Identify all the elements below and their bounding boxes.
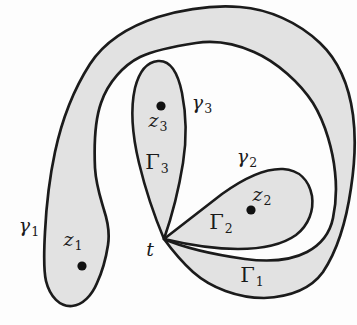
label-z1: z1 [64,230,83,253]
gamma1-band-region [44,6,355,306]
contour-integration-figure: γ1 z1 t Γ3 z3 γ3 γ2 z2 Γ2 Γ1 [0,0,357,325]
label-Gamma2: Γ2 [209,212,233,236]
label-Gamma3: Γ3 [145,152,169,176]
z1-point-dot [77,261,86,270]
label-gamma3: γ3 [192,93,212,116]
label-gamma2: γ2 [237,147,257,170]
label-t: t [146,240,154,259]
gamma2-loop-region [164,169,312,249]
label-z2: z2 [253,185,272,208]
label-gamma1: γ1 [19,216,39,239]
contour-figure-canvas [0,0,357,325]
label-z3: z3 [149,111,168,134]
label-Gamma1: Γ1 [240,265,264,289]
